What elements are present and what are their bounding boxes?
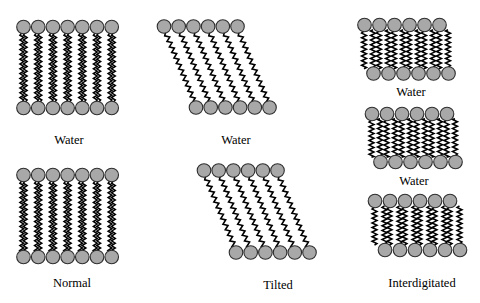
lipid-head	[433, 18, 447, 32]
lipid-head	[393, 243, 407, 257]
lipid-head	[157, 20, 171, 34]
lipid-head	[434, 155, 448, 169]
lipid-head	[61, 168, 75, 182]
lipid-head	[442, 67, 456, 81]
lipid-head	[197, 164, 211, 178]
lipid-head	[216, 20, 230, 34]
label-normal: Normal	[53, 276, 92, 290]
label-water-tilted: Water	[221, 133, 251, 147]
lipid-head	[397, 67, 411, 81]
lipid-head	[46, 168, 60, 182]
label-interdigitated: Interdigitated	[388, 276, 456, 290]
lipid-head	[388, 18, 402, 32]
lipid-head	[61, 20, 75, 34]
lipid-head	[427, 67, 441, 81]
lipid-head	[105, 101, 119, 115]
label-water-interdigitated-2: Water	[399, 174, 429, 188]
lipid-head	[271, 164, 285, 178]
lipid-head	[31, 250, 45, 264]
lipid-head	[423, 243, 437, 257]
lipid-head	[90, 250, 104, 264]
lipid-head	[189, 101, 203, 115]
lipid-head	[419, 155, 433, 169]
lipid-head	[17, 168, 31, 182]
lipid-head	[365, 107, 379, 121]
lipid-head	[410, 107, 424, 121]
lipid-head	[403, 18, 417, 32]
lipid-head	[413, 194, 427, 208]
lipid-head	[425, 107, 439, 121]
lipid-head	[231, 20, 245, 34]
lipid-head	[31, 101, 45, 115]
lipid-head	[76, 168, 90, 182]
lipid-head	[233, 101, 247, 115]
lipid-head	[389, 155, 403, 169]
lipid-head	[76, 20, 90, 34]
lipid-head	[17, 250, 31, 264]
lipid-head	[440, 107, 454, 121]
lipid-head	[17, 20, 31, 34]
lipid-head	[248, 101, 262, 115]
lipid-head	[382, 67, 396, 81]
lipid-head	[105, 20, 119, 34]
lipid-head	[256, 164, 270, 178]
label-tilted: Tilted	[263, 278, 293, 292]
lipid-head	[105, 250, 119, 264]
lipid-head	[412, 67, 426, 81]
lipid-head	[418, 18, 432, 32]
lipid-head	[373, 18, 387, 32]
lipid-head	[438, 243, 452, 257]
lipid-head	[303, 246, 317, 260]
lipid-head	[46, 20, 60, 34]
lipid-head	[187, 20, 201, 34]
lipid-head	[90, 20, 104, 34]
lipid-head	[449, 155, 463, 169]
lipid-head	[76, 250, 90, 264]
lipid-head	[46, 101, 60, 115]
label-water-interdigitated-1: Water	[396, 85, 426, 99]
lipid-head	[408, 243, 422, 257]
lipid-head	[204, 101, 218, 115]
lipid-head	[453, 243, 467, 257]
label-water-normal: Water	[54, 133, 84, 147]
lipid-head	[263, 101, 277, 115]
lipid-head	[17, 101, 31, 115]
lipid-head	[31, 20, 45, 34]
lipid-head	[31, 168, 45, 182]
lipid-head	[212, 164, 226, 178]
lipid-head	[61, 250, 75, 264]
lipid-head	[227, 164, 241, 178]
lipid-head	[398, 194, 412, 208]
lipid-head	[61, 101, 75, 115]
lipid-head	[380, 107, 394, 121]
lipid-head	[374, 155, 388, 169]
lipid-head	[358, 18, 372, 32]
lipid-head	[288, 246, 302, 260]
lipid-head	[90, 168, 104, 182]
lipid-head	[273, 246, 287, 260]
lipid-head	[105, 168, 119, 182]
lipid-head	[378, 243, 392, 257]
lipid-head	[428, 194, 442, 208]
lipid-head	[395, 107, 409, 121]
lipid-head	[259, 246, 273, 260]
lipid-head	[383, 194, 397, 208]
lipid-head	[443, 194, 457, 208]
lipid-head	[241, 164, 255, 178]
lipid-head	[46, 250, 60, 264]
lipid-head	[404, 155, 418, 169]
lipid-head	[219, 101, 233, 115]
lipid-bilayer-diagram: Water Water Water Water Interdigitated N…	[0, 0, 480, 303]
lipid-head	[367, 67, 381, 81]
lipid-head	[201, 20, 215, 34]
lipid-head	[368, 194, 382, 208]
lipid-head	[172, 20, 186, 34]
lipid-head	[229, 246, 243, 260]
lipid-head	[90, 101, 104, 115]
lipid-head	[244, 246, 258, 260]
lipid-head	[76, 101, 90, 115]
